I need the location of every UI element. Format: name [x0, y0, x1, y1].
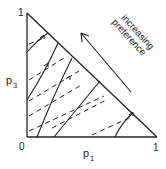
dashed-line-1 — [29, 37, 46, 44]
dashed-line-7 — [92, 117, 131, 135]
x-axis-label-main: p — [83, 147, 89, 159]
y-axis-label-subscript: 3 — [13, 81, 17, 90]
indifference-curve-3 — [37, 58, 72, 137]
dashed-line-6 — [52, 100, 106, 128]
y-axis-label-main: p — [6, 74, 12, 86]
indifference-curves — [27, 33, 133, 137]
x-axis-max-label: 1 — [153, 142, 159, 153]
origin-label: 0 — [19, 141, 25, 152]
probability-triangle-diagram: increasing preference 1 0 1 p 3 p 1 — [0, 0, 166, 169]
x-axis-label: p 1 — [83, 147, 94, 163]
dashed-line-5 — [29, 96, 104, 131]
preference-arrow — [81, 33, 131, 92]
indifference-curve-4 — [54, 81, 100, 137]
indifference-curve-2 — [27, 43, 58, 100]
preference-annotation: increasing preference — [110, 10, 157, 58]
indifference-curve-1 — [27, 33, 48, 52]
dashed-line-2 — [29, 58, 64, 80]
y-axis-label: p 3 — [6, 74, 17, 90]
curve-arrowhead-3 — [66, 76, 70, 80]
preference-arrow-shaft — [81, 33, 131, 92]
indifference-curve-5 — [115, 113, 133, 137]
x-axis-label-subscript: 1 — [90, 154, 94, 163]
y-axis-max-label: 1 — [18, 7, 24, 18]
